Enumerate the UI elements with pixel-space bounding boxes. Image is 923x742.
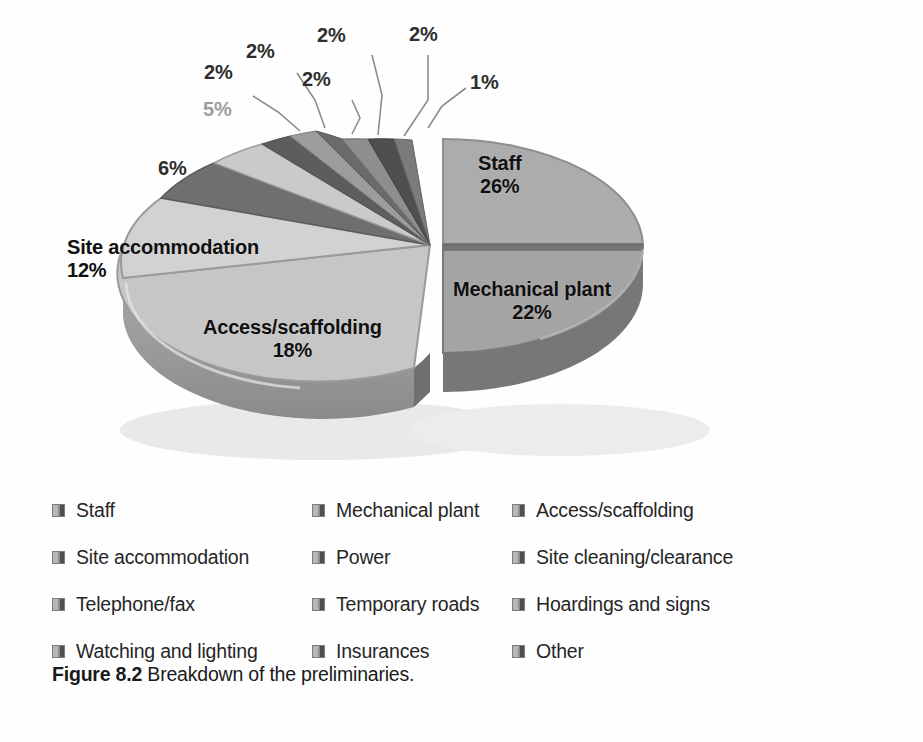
figure-container: Staff 26% Mechanical plant 22% Access/sc… <box>0 0 923 742</box>
pie-chart-svg <box>0 0 923 470</box>
legend-item-temporary-roads[interactable]: Temporary roads <box>312 581 512 628</box>
legend-row: Telephone/fax Temporary roads Hoardings … <box>52 581 912 628</box>
figure-caption-label: Figure 8.2 <box>52 663 142 685</box>
legend-swatch-icon <box>512 645 525 658</box>
legend-item-other[interactable]: Other <box>512 628 812 675</box>
legend-item-hoardings-and-signs[interactable]: Hoardings and signs <box>512 581 812 628</box>
pie-label-mechanical-plant: Mechanical plant 22% <box>453 278 611 323</box>
legend-item-power[interactable]: Power <box>312 534 512 581</box>
legend-swatch-icon <box>512 551 525 564</box>
pie-label-telephone-fax-pct: 2% <box>204 61 233 84</box>
pie-label-mechanical-pct: 22% <box>453 301 611 324</box>
legend-swatch-icon <box>312 598 325 611</box>
leader-line-watching-lighting <box>372 55 382 135</box>
legend-row: Site accommodation Power Site cleaning/c… <box>52 534 912 581</box>
legend-label: Site accommodation <box>76 546 249 569</box>
pie-label-access-pct: 18% <box>203 339 382 362</box>
legend-label: Telephone/fax <box>76 593 195 616</box>
leader-line-hoardings-signs <box>352 100 360 134</box>
leader-line-other <box>428 88 466 128</box>
pie-label-staff-name: Staff <box>478 152 521 174</box>
figure-caption-text: Breakdown of the preliminaries. <box>147 663 414 685</box>
legend-swatch-icon <box>52 551 65 564</box>
pie-label-temporary-roads-pct: 2% <box>246 40 275 63</box>
legend-label: Staff <box>76 499 115 522</box>
pie-label-insurances-pct: 2% <box>409 23 438 46</box>
legend-label: Mechanical plant <box>336 499 479 522</box>
leader-lines <box>253 55 466 136</box>
legend-label: Watching and lighting <box>76 640 258 663</box>
legend-item-staff[interactable]: Staff <box>52 487 312 534</box>
pie-label-staff-pct: 26% <box>478 175 521 198</box>
legend-item-telephone-fax[interactable]: Telephone/fax <box>52 581 312 628</box>
pie-label-site-accom-pct: 12% <box>67 259 259 282</box>
legend-swatch-icon <box>512 598 525 611</box>
legend-label: Temporary roads <box>336 593 479 616</box>
pie-divider-staff-mechanical <box>443 243 643 251</box>
chart-legend: Staff Mechanical plant Access/scaffoldin… <box>52 487 912 675</box>
pie-label-mechanical-name: Mechanical plant <box>453 278 611 300</box>
pie-label-staff: Staff 26% <box>478 152 521 197</box>
legend-label: Power <box>336 546 390 569</box>
pie-label-power-pct: 6% <box>158 157 187 180</box>
legend-item-site-accommodation[interactable]: Site accommodation <box>52 534 312 581</box>
legend-swatch-icon <box>312 645 325 658</box>
legend-swatch-icon <box>52 645 65 658</box>
figure-caption: Figure 8.2 Breakdown of the preliminarie… <box>52 663 414 686</box>
pie-label-access-scaffolding: Access/scaffolding 18% <box>203 316 382 361</box>
pie-label-hoardings-signs-pct: 2% <box>302 68 331 91</box>
pie-label-other-pct: 1% <box>470 71 499 94</box>
pie-chart: Staff 26% Mechanical plant 22% Access/sc… <box>0 0 923 470</box>
legend-item-access-scaffolding[interactable]: Access/scaffolding <box>512 487 812 534</box>
legend-swatch-icon <box>512 504 525 517</box>
legend-swatch-icon <box>312 551 325 564</box>
legend-label: Hoardings and signs <box>536 593 710 616</box>
legend-label: Access/scaffolding <box>536 499 694 522</box>
pie-label-watching-lighting-pct: 2% <box>317 24 346 47</box>
legend-swatch-icon <box>52 504 65 517</box>
pie-slice-staff <box>443 139 643 245</box>
pie-ground-shadow-right <box>410 404 710 456</box>
leader-line-insurances <box>404 55 428 136</box>
pie-label-access-name: Access/scaffolding <box>203 316 382 338</box>
legend-swatch-icon <box>312 504 325 517</box>
pie-label-site-accommodation: Site accommodation 12% <box>67 236 259 281</box>
pie-right-group <box>443 139 643 392</box>
legend-label: Insurances <box>336 640 429 663</box>
pie-wall-left-edge <box>414 353 430 407</box>
legend-label: Site cleaning/clearance <box>536 546 733 569</box>
legend-swatch-icon <box>52 598 65 611</box>
legend-label: Other <box>536 640 584 663</box>
legend-row: Staff Mechanical plant Access/scaffoldin… <box>52 487 912 534</box>
leader-line-telephone-fax <box>253 96 300 131</box>
legend-item-site-cleaning-clearance[interactable]: Site cleaning/clearance <box>512 534 812 581</box>
legend-item-mechanical-plant[interactable]: Mechanical plant <box>312 487 512 534</box>
pie-label-site-accom-name: Site accommodation <box>67 236 259 258</box>
pie-label-site-cleaning-pct: 5% <box>203 98 232 121</box>
